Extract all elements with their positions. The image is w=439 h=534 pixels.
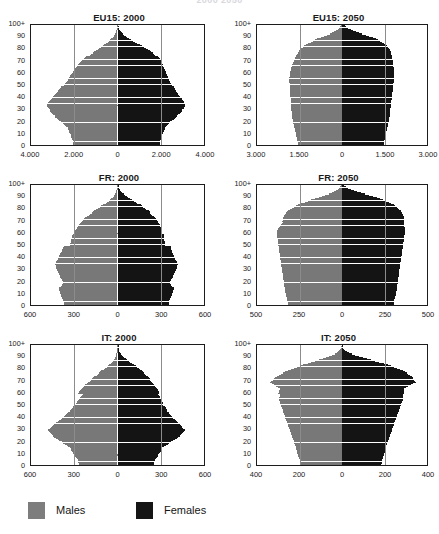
pyramid-row (257, 73, 427, 74)
bar-females (342, 273, 399, 274)
pyramid-row (31, 246, 204, 247)
bar-females (118, 378, 150, 379)
bar-males (82, 388, 118, 389)
bar-females (342, 138, 385, 139)
pyramid-row (31, 60, 204, 61)
bar-females (118, 68, 165, 69)
pyramid-row (257, 299, 427, 300)
pyramid-row (31, 239, 204, 240)
pyramid-row (31, 195, 204, 196)
y-tick-label: 70 (17, 57, 25, 64)
bar-females (342, 190, 354, 191)
pyramid-row (31, 124, 204, 125)
x-tick-label: 4.000 (196, 150, 215, 160)
bar-males (73, 143, 118, 144)
bar-females (342, 140, 384, 141)
bar-males (81, 389, 118, 390)
pyramid-row (31, 237, 204, 238)
bar-females (118, 299, 170, 300)
legend-item-males: Males (28, 502, 85, 519)
bar-females (342, 77, 394, 78)
bar-males (273, 380, 342, 381)
bar-females (118, 60, 161, 61)
pyramid-row (257, 185, 427, 186)
bar-females (118, 28, 119, 29)
pyramid-row (257, 230, 427, 231)
pyramid-row (257, 382, 427, 383)
bar-females (342, 456, 383, 457)
pyramid-row (31, 427, 204, 428)
pyramid-row (257, 214, 427, 215)
bar-females (118, 188, 119, 189)
bar-males (77, 227, 117, 228)
pyramid-row (257, 249, 427, 250)
pyramid-row (31, 81, 204, 82)
pyramid-row (257, 275, 427, 276)
pyramid-row (257, 286, 427, 287)
pyramid-row (257, 63, 427, 64)
pyramid-row (257, 372, 427, 373)
pyramid-row (257, 381, 427, 382)
bar-males (62, 280, 117, 281)
bar-males (286, 293, 342, 294)
bar-males (294, 60, 342, 61)
bar-females (118, 57, 159, 58)
bar-males (103, 45, 118, 46)
pyramid-row (31, 296, 204, 297)
bar-males (56, 422, 117, 423)
bar-females (342, 271, 399, 272)
pyramid-row (257, 48, 427, 49)
bar-males (50, 100, 118, 101)
pyramid-row (31, 41, 204, 42)
bar-females (118, 43, 137, 44)
bar-males (91, 54, 117, 55)
bar-males (78, 64, 117, 65)
y-tick-label: 0 (247, 302, 251, 309)
pyramid-row (31, 108, 204, 109)
panel-title: EU15: 2000 (0, 12, 220, 23)
bar-females (118, 55, 156, 56)
pyramid-row (257, 37, 427, 38)
pyramid-row (257, 36, 427, 37)
pyramid-row (31, 120, 204, 121)
bar-females (118, 63, 163, 64)
pyramid-row (257, 261, 427, 262)
y-tick-label: 40 (243, 254, 251, 261)
y-tick-label: 60 (243, 389, 251, 396)
bar-females (342, 420, 395, 421)
pyramid-row (31, 416, 204, 417)
pyramid-row (257, 204, 427, 205)
pyramid-row (31, 454, 204, 455)
pyramid-row (257, 383, 427, 384)
y-tick-label: 30 (17, 106, 25, 113)
x-tick-label: 250 (293, 310, 306, 320)
bar-males (105, 368, 117, 369)
pyramid-row (257, 242, 427, 243)
bar-males (50, 109, 118, 110)
bar-females (342, 438, 389, 439)
bar-males (290, 87, 342, 88)
bar-females (342, 118, 389, 119)
y-tick-label: 100+ (235, 340, 251, 347)
bar-males (78, 462, 117, 463)
y-tick-label: 70 (17, 377, 25, 384)
pyramid-row (31, 73, 204, 74)
bar-females (342, 196, 373, 197)
bar-females (118, 393, 160, 394)
bar-females (118, 71, 166, 72)
bar-males (325, 195, 342, 196)
x-tick-label: 3.000 (419, 150, 438, 160)
bar-females (118, 227, 161, 228)
bar-females (118, 130, 165, 131)
pyramid-row (31, 266, 204, 267)
bar-males (110, 39, 117, 40)
bar-females (118, 93, 178, 94)
pyramid-row (257, 362, 427, 363)
pyramid-row (31, 297, 204, 298)
pyramid-row (257, 441, 427, 442)
pyramid-row (31, 64, 204, 65)
bar-males (65, 125, 117, 126)
bar-males (68, 79, 117, 80)
pyramid-row (31, 113, 204, 114)
bar-females (342, 44, 386, 45)
